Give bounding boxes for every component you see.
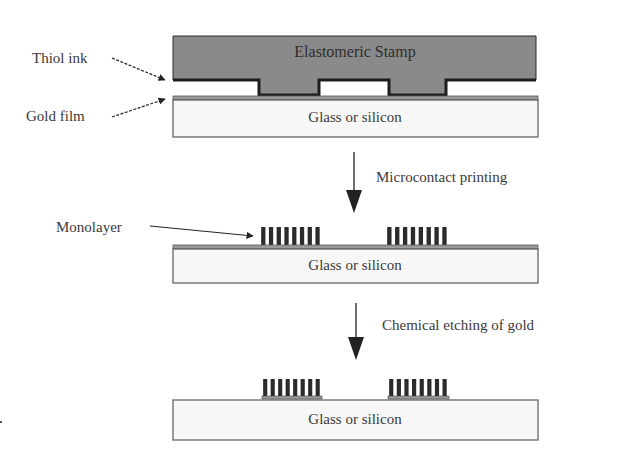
monolayer-molecule-bar — [427, 227, 431, 245]
monolayer-molecule-bar — [315, 227, 319, 245]
gold-film-callout-arrow — [112, 99, 165, 117]
monolayer-molecule-bar — [404, 379, 408, 396]
monolayer-molecule-bar — [308, 227, 312, 245]
monolayer-label: Monolayer — [56, 220, 122, 235]
monolayer-molecule-bar — [301, 379, 305, 396]
monolayer-molecule-bar — [395, 227, 399, 245]
stamp-label: Elastomeric Stamp — [294, 44, 415, 60]
monolayer-molecule-bar — [278, 379, 282, 396]
monolayer-molecule-bar — [286, 379, 290, 396]
monolayer-molecule-bar — [300, 227, 304, 245]
monolayer-block-2 — [387, 227, 446, 245]
stage2-assembly — [173, 227, 538, 283]
process-arrow-2 — [348, 303, 364, 360]
monolayer-molecule-bar — [261, 227, 265, 245]
monolayer-molecule-bar — [403, 227, 407, 245]
monolayer-molecule-bar — [277, 227, 281, 245]
stray-mark — [0, 421, 2, 423]
monolayer-molecule-bar — [389, 379, 393, 396]
monolayer-molecule-bar — [292, 227, 296, 245]
thiol-ink-callout-arrow — [112, 58, 165, 80]
monolayer-block-4 — [389, 379, 447, 396]
gold-film-stage2 — [173, 245, 538, 249]
monolayer-molecule-bar — [263, 379, 267, 396]
monolayer-molecule-bar — [412, 379, 416, 396]
monolayer-molecule-bar — [442, 227, 446, 245]
monolayer-molecule-bar — [435, 379, 439, 396]
stage3-assembly — [173, 379, 538, 440]
step1-label: Microcontact printing — [376, 170, 507, 185]
monolayer-molecule-bar — [411, 227, 415, 245]
monolayer-molecule-bar — [316, 379, 320, 396]
monolayer-molecule-bar — [387, 227, 391, 245]
monolayer-molecule-bar — [308, 379, 312, 396]
gold-pad-1 — [262, 396, 322, 399]
thiol-ink-label: Thiol ink — [32, 51, 87, 66]
monolayer-molecule-bar — [271, 379, 275, 396]
substrate-label-stage2: Glass or silicon — [308, 258, 401, 273]
thiol-ink-layer — [173, 80, 536, 95]
gold-pad-2 — [388, 396, 449, 399]
monolayer-block-1 — [261, 227, 320, 245]
monolayer-molecule-bar — [419, 227, 423, 245]
substrate-label-stage1: Glass or silicon — [308, 110, 401, 125]
monolayer-molecule-bar — [434, 227, 438, 245]
monolayer-molecule-bar — [293, 379, 297, 396]
monolayer-molecule-bar — [284, 227, 288, 245]
monolayer-block-3 — [263, 379, 320, 396]
monolayer-callout-arrow — [150, 226, 253, 236]
process-arrow-1 — [346, 152, 362, 213]
monolayer-molecule-bar — [420, 379, 424, 396]
substrate-label-stage3: Glass or silicon — [308, 412, 401, 427]
monolayer-molecule-bar — [443, 379, 447, 396]
monolayer-molecule-bar — [397, 379, 401, 396]
step2-label: Chemical etching of gold — [382, 318, 534, 333]
monolayer-molecule-bar — [427, 379, 431, 396]
monolayer-molecule-bar — [269, 227, 273, 245]
gold-film-label: Gold film — [26, 109, 85, 124]
